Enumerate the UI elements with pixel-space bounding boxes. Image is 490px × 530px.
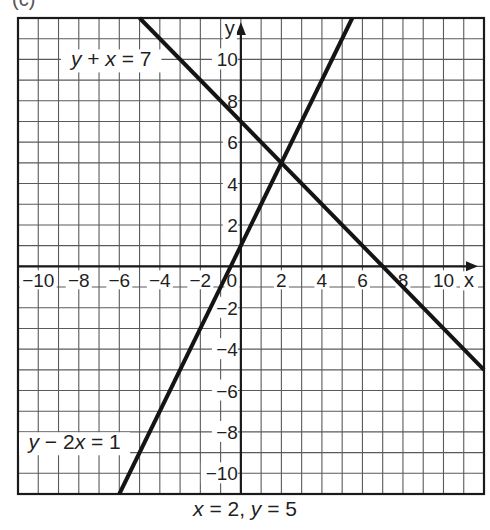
label-y-plus-x-equals-7: y + x = 7	[69, 47, 152, 70]
y-tick-label: 10	[217, 49, 238, 70]
solution-caption: x = 2, y = 5	[0, 497, 490, 521]
y-tick-label: −2	[216, 298, 238, 319]
tick-labels: −10−8−6−4−20246810−10−8−6−4−2246810xy	[20, 17, 478, 484]
x-tick-label: −8	[68, 270, 90, 291]
y-tick-label: −10	[206, 463, 238, 484]
x-tick-label: −2	[190, 270, 212, 291]
x-tick-label: 10	[433, 270, 454, 291]
label-y-minus-2x-equals-1: y − 2x = 1	[27, 430, 121, 453]
x-axis-name: x	[464, 269, 474, 291]
x-tick-label: 6	[357, 270, 368, 291]
y-axis-name: y	[225, 17, 235, 39]
y-axis-arrow-icon	[236, 22, 246, 35]
series-line	[140, 18, 484, 370]
y-tick-label: 4	[227, 174, 238, 195]
x-tick-label: −10	[22, 270, 54, 291]
y-tick-label: 6	[227, 132, 238, 153]
x-tick-label: 4	[317, 270, 328, 291]
axes	[18, 18, 484, 494]
y-tick-label: −6	[216, 381, 238, 402]
x-tick-label: 2	[276, 270, 287, 291]
x-tick-label: −4	[149, 270, 171, 291]
y-tick-label: −4	[216, 339, 238, 360]
y-tick-label: 2	[227, 215, 238, 236]
plot-frame	[18, 18, 484, 494]
grid	[18, 18, 484, 494]
graph: −10−8−6−4−20246810−10−8−6−4−2246810xy y …	[0, 0, 490, 500]
y-tick-label: −8	[216, 422, 238, 443]
x-tick-label: −6	[108, 270, 130, 291]
